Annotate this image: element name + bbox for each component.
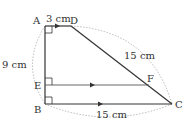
point-label-b: B <box>34 104 41 115</box>
measure-bc: 15 cm <box>96 109 128 120</box>
arc-ab <box>33 26 46 104</box>
point-label-a: A <box>32 15 41 26</box>
parallel-arrow-bc <box>98 102 103 107</box>
measure-ad: 3 cm <box>46 13 71 24</box>
point-label-f: F <box>147 73 154 84</box>
segment-dc <box>71 26 172 104</box>
parallel-arrow-ef <box>90 83 95 88</box>
right-angle-e <box>45 78 52 85</box>
right-angle-a <box>45 26 52 33</box>
right-angle-b <box>45 97 52 104</box>
point-label-d: D <box>70 15 78 26</box>
parallel-arrow-ad <box>55 24 60 29</box>
point-label-e: E <box>34 80 41 91</box>
measure-dc: 15 cm <box>124 50 156 61</box>
point-label-c: C <box>175 99 183 110</box>
trapezoid-diagram: A D E B F C 3 cm 9 cm 15 cm 15 cm <box>0 0 190 128</box>
measure-ab: 9 cm <box>2 59 27 70</box>
